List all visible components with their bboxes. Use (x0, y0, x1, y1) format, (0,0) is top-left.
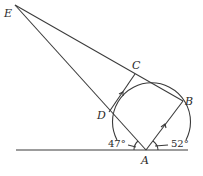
geometry-diagram: E C B D A 47° 52° (0, 0, 203, 176)
circle-arc (113, 83, 191, 140)
angle-label-right: 52° (171, 138, 189, 149)
angle-label-left: 47° (108, 138, 126, 149)
label-B: B (184, 95, 193, 108)
label-A: A (140, 154, 149, 167)
label-D: D (96, 109, 106, 122)
label-E: E (3, 7, 12, 20)
angle-arc-left (134, 141, 138, 150)
label-C: C (132, 59, 141, 72)
line-ED-A (15, 5, 146, 150)
line-EC-B (15, 5, 183, 101)
